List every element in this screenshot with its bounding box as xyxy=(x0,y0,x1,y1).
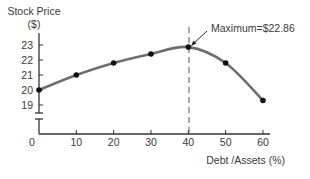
x-tick-label: 10 xyxy=(70,136,82,148)
x-tick-label: 30 xyxy=(145,136,157,148)
y-axis-label-line1: Stock Price xyxy=(7,5,60,17)
annotation-arrow-line xyxy=(193,31,207,44)
data-points xyxy=(36,44,266,103)
x-tick-label: 60 xyxy=(257,136,269,148)
data-point xyxy=(186,44,192,50)
y-tick-label: 22 xyxy=(21,54,33,66)
axes xyxy=(35,33,270,134)
x-tick-label: 50 xyxy=(220,136,232,148)
x-tick-label: 20 xyxy=(108,136,120,148)
x-tick-label: 40 xyxy=(182,136,194,148)
maximum-annotation: Maximum=$22.86 xyxy=(211,22,295,34)
data-point xyxy=(260,98,266,104)
y-ticks: 1920212223 xyxy=(21,39,43,111)
x-tick-label: 0 xyxy=(29,136,35,148)
data-point xyxy=(111,60,117,66)
y-tick-label: 21 xyxy=(21,69,33,81)
data-point xyxy=(36,87,42,93)
y-tick-label: 23 xyxy=(21,39,33,51)
data-point xyxy=(74,72,80,78)
x-ticks: 0102030405060 xyxy=(29,130,269,148)
x-axis-label: Debt /Assets (%) xyxy=(206,154,285,166)
y-axis-label-line2: ($) xyxy=(28,18,41,30)
y-tick-label: 19 xyxy=(21,99,33,111)
data-point xyxy=(223,60,229,66)
y-tick-label: 20 xyxy=(21,84,33,96)
stock-price-chart: Stock Price ($) 1920212223 0102030405060… xyxy=(0,0,310,179)
data-point xyxy=(148,51,154,57)
